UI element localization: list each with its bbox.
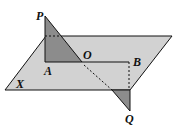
label-a: A (43, 64, 52, 78)
label-x: X (15, 77, 25, 91)
label-o: O (83, 48, 92, 62)
triangle-q (112, 90, 130, 111)
label-p: P (36, 9, 44, 23)
geometry-diagram: P A O B X Q (0, 0, 174, 129)
label-b: B (132, 55, 141, 69)
label-q: Q (125, 112, 134, 126)
plane-x (5, 36, 172, 90)
